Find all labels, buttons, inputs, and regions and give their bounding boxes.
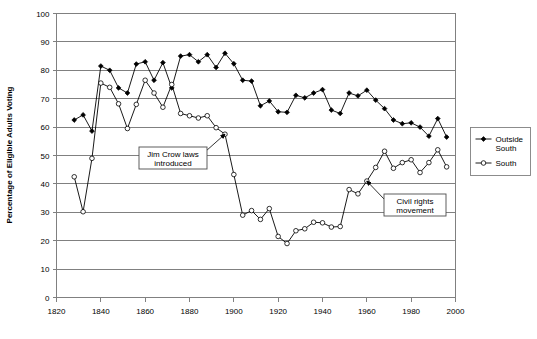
x-tick-label-1960: 1960 [358,307,376,316]
y-tick-label-0: 0 [45,294,50,303]
data-point-marker [249,208,254,213]
data-point-marker [161,105,166,110]
legend-marker-open-circle [481,161,486,166]
x-tick-label-1920: 1920 [269,307,287,316]
data-point-marker [143,78,148,83]
y-tick-label-80: 80 [41,66,50,75]
y-tick-label-60: 60 [41,123,50,132]
data-point-marker [391,166,396,171]
data-point-marker [435,148,440,153]
y-tick-label-50: 50 [41,152,50,161]
data-point-marker [418,170,423,175]
data-point-marker [329,225,334,230]
data-point-marker [258,217,263,222]
data-point-marker [267,206,272,211]
data-point-marker [90,156,95,161]
data-point-marker [169,82,174,87]
data-point-marker [409,157,414,162]
annotation-text-line2: movement [396,206,434,215]
data-point-marker [373,165,378,170]
data-point-marker [99,81,104,86]
y-axis-title: Percentage of Eligible Adults Voting [5,86,14,223]
data-point-marker [232,172,237,177]
data-point-marker [400,160,405,165]
chart-container: 0102030405060708090100 18201840186018801… [0,0,537,339]
data-point-marker [152,91,157,96]
data-point-marker [294,228,299,233]
data-point-marker [338,224,343,229]
chart-legend: OutsideSouthSouth [471,128,531,176]
data-point-marker [320,221,325,226]
x-tick-label-1820: 1820 [48,307,66,316]
legend-label-line2: South [496,144,517,153]
x-tick-label-1900: 1900 [225,307,243,316]
y-tick-label-100: 100 [36,10,50,19]
x-tick-label-1860: 1860 [136,307,154,316]
x-tick-label-1980: 1980 [402,307,420,316]
annotation-text-line2: introduced [154,159,191,168]
legend-label-line1: South [496,159,517,168]
data-point-marker [107,85,112,90]
data-point-marker [72,175,77,180]
y-tick-label-40: 40 [41,180,50,189]
legend-label-line1: Outside [496,135,524,144]
x-tick-label-1840: 1840 [92,307,110,316]
data-point-marker [116,102,121,107]
data-point-marker [205,113,210,118]
y-tick-label-10: 10 [41,265,50,274]
annotation-text-line1: Civil rights [397,197,434,206]
x-tick-label-1940: 1940 [314,307,332,316]
data-point-marker [356,192,361,197]
data-point-marker [178,111,183,116]
data-point-marker [302,226,307,231]
data-point-marker [125,126,130,131]
data-point-marker [427,160,432,165]
data-point-marker [196,116,201,121]
data-point-marker [444,165,449,170]
data-point-marker [187,113,192,118]
data-point-marker [285,241,290,246]
x-tick-label-1880: 1880 [181,307,199,316]
data-point-marker [134,102,139,107]
x-tick-label-2000: 2000 [447,307,465,316]
y-tick-label-70: 70 [41,95,50,104]
y-tick-label-30: 30 [41,208,50,217]
chart-background [0,0,537,339]
annotation-text-line1: Jim Crow laws [147,150,199,159]
data-point-marker [311,220,316,225]
data-point-marker [81,209,86,214]
data-point-marker [347,187,352,192]
data-point-marker [214,125,219,130]
data-point-marker [382,149,387,154]
voter-turnout-line-chart: 0102030405060708090100 18201840186018801… [0,0,537,339]
y-tick-label-90: 90 [41,38,50,47]
data-point-marker [240,213,245,218]
y-tick-label-20: 20 [41,237,50,246]
data-point-marker [276,234,281,239]
